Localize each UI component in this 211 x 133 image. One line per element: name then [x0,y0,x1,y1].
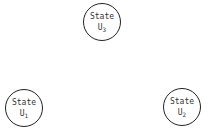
node-label: State [90,12,114,22]
state-node-u3: State U3 [83,3,121,41]
state-node-u2: State U2 [163,88,201,126]
node-label: State [12,98,36,108]
node-variable: U1 [20,109,28,119]
node-variable: U2 [178,108,186,118]
node-label: State [170,97,194,107]
state-node-u1: State U1 [5,89,43,127]
node-variable: U3 [98,23,106,33]
